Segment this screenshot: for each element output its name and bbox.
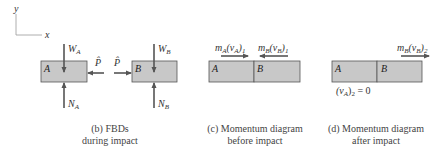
weight-b-label: WB [158, 44, 171, 56]
before-block-a-label: A [212, 64, 218, 74]
x-axis-label: x [45, 30, 49, 40]
before-block-b-label: B [257, 64, 263, 74]
fbd-block-b-label: B [135, 64, 141, 74]
before-caption: (c) Momentum diagram before impact [200, 123, 310, 147]
normal-b-label: NB [158, 99, 169, 111]
impulse-on-b-label: P̂ [114, 58, 120, 68]
impulse-on-a-label: P̂ [95, 58, 101, 68]
after-caption: (d) Momentum diagram after impact [320, 123, 432, 147]
normal-a-label: NA [68, 99, 79, 111]
momentum-a-before-label: mA(vA)1 [215, 43, 245, 55]
fbd-caption: (b) FBDs during impact [60, 123, 160, 147]
after-block-b-label: B [381, 64, 387, 74]
fbd-block-a-label: A [44, 64, 50, 74]
weight-a-label: WA [68, 44, 81, 56]
momentum-b-after-label: mB(vB)2 [397, 43, 427, 55]
coordinate-axes [16, 14, 42, 35]
momentum-b-before-label: mB(vB)1 [258, 43, 288, 55]
velocity-a-after-label: (vA)2 = 0 [336, 86, 371, 98]
after-block-a-label: A [335, 64, 341, 74]
y-axis-label: y [14, 4, 18, 14]
